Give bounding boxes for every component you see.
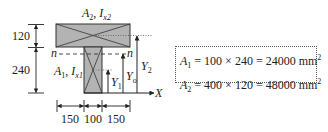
y2-subscript: 2	[148, 66, 152, 75]
formula-a2: A2 = 400 × 120 = 48000 mm2	[180, 74, 316, 98]
y2-symbol: Y	[141, 59, 148, 73]
y0-symbol: Y	[126, 69, 133, 83]
dimension-web-height: 240	[12, 64, 30, 76]
flange-label: A2, Ix2	[82, 7, 111, 22]
x-axis-label: X	[155, 87, 162, 99]
y1-label: Y1	[111, 76, 122, 91]
area-formula-box: A1 = 100 × 240 = 24000 mm2 A2 = 400 × 12…	[175, 46, 317, 83]
neutral-axis-label-left: n	[51, 47, 57, 59]
y2-label: Y2	[141, 60, 152, 75]
web-inertia-subscript: x1	[75, 71, 83, 80]
dimension-right-overhang: 150	[107, 113, 125, 125]
a2-unit-exponent: 2	[317, 77, 321, 86]
a1-unit-exponent: 2	[317, 53, 321, 62]
dimension-left-overhang: 150	[61, 113, 79, 125]
horizontal-dimension	[57, 100, 130, 112]
y1-symbol: Y	[111, 75, 118, 89]
y0-subscript: o	[133, 76, 137, 85]
web-label: A1, Ix1	[54, 65, 83, 80]
flange-inertia-subscript: x2	[103, 13, 111, 22]
dimension-flange-height: 120	[12, 30, 30, 42]
vertical-dimension	[28, 25, 44, 94]
dimension-web-width: 100	[84, 113, 102, 125]
y0-label: Yo	[126, 70, 137, 85]
a1-expression: = 100 × 240 = 24000 mm	[191, 54, 317, 68]
y1-subscript: 1	[118, 82, 122, 91]
neutral-axis-label-right: n	[127, 47, 133, 59]
a2-expression: = 400 × 120 = 48000 mm	[191, 78, 317, 92]
formula-a1: A1 = 100 × 240 = 24000 mm2	[180, 50, 316, 74]
